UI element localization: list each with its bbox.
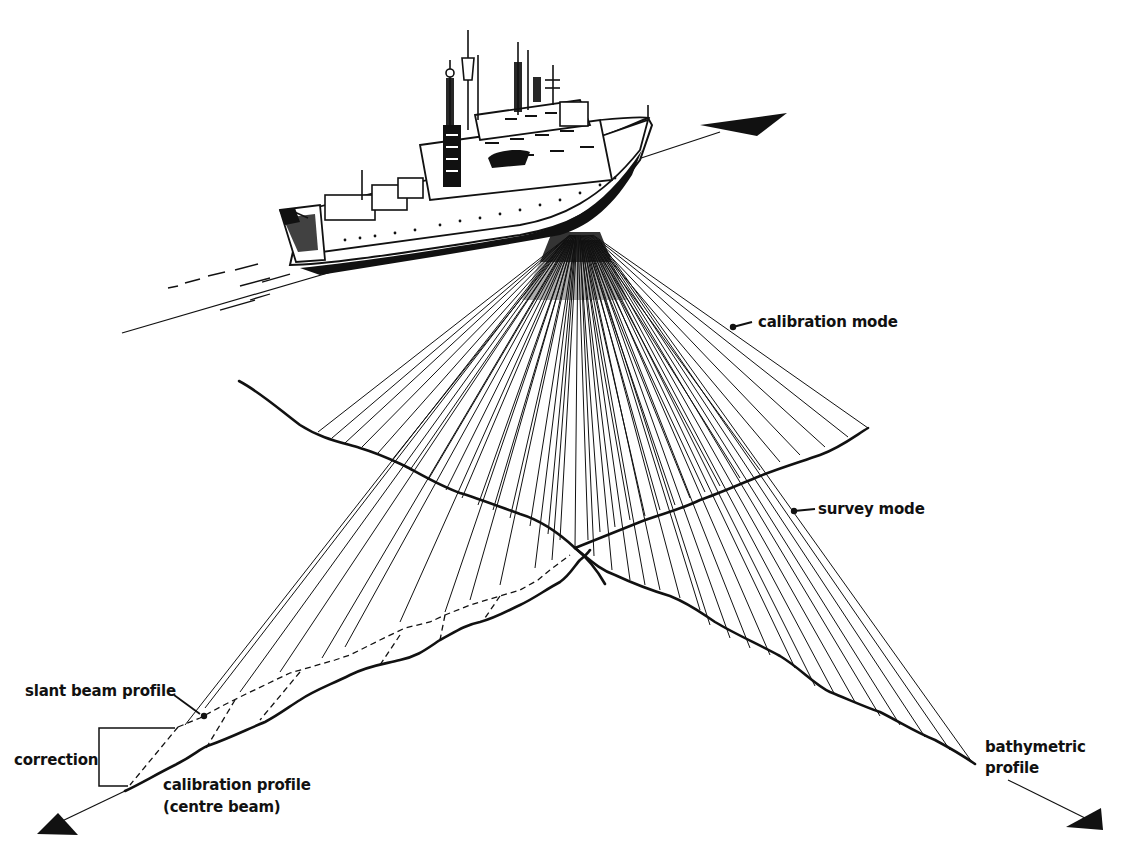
slant-beam-leader: [174, 695, 200, 714]
bathymetric-seabed-profile: [575, 548, 975, 764]
slant-beam-leader-dot: [201, 713, 207, 719]
bathymetric-profile-sublabel: profile: [985, 759, 1039, 777]
multibeam-survey-diagram: calibration mode survey mode slant beam …: [0, 0, 1128, 862]
calibration-track-line: [60, 791, 125, 822]
calibration-mode-leader: [733, 322, 752, 327]
survey-mode-leader: [794, 509, 815, 511]
calibration-mode-label: calibration mode: [758, 313, 898, 331]
bathymetric-track-line: [1008, 780, 1085, 818]
correction-label: correction: [14, 751, 98, 769]
calibration-profile-label: calibration profile: [163, 776, 311, 794]
bathymetric-profile-label: bathymetric: [985, 738, 1086, 756]
slant-beam-profile-label: slant beam profile: [25, 682, 176, 700]
survey-mode-label: survey mode: [818, 500, 925, 518]
slant-beam-profile: [178, 555, 570, 727]
calibration-seabed-profile: [125, 550, 590, 791]
calibration-mode-seabed-profile: [239, 381, 605, 584]
ship-wake: [168, 264, 290, 310]
calibration-profile-sublabel: (centre beam): [163, 798, 280, 816]
ship-heading-arrow-icon: [700, 113, 787, 136]
